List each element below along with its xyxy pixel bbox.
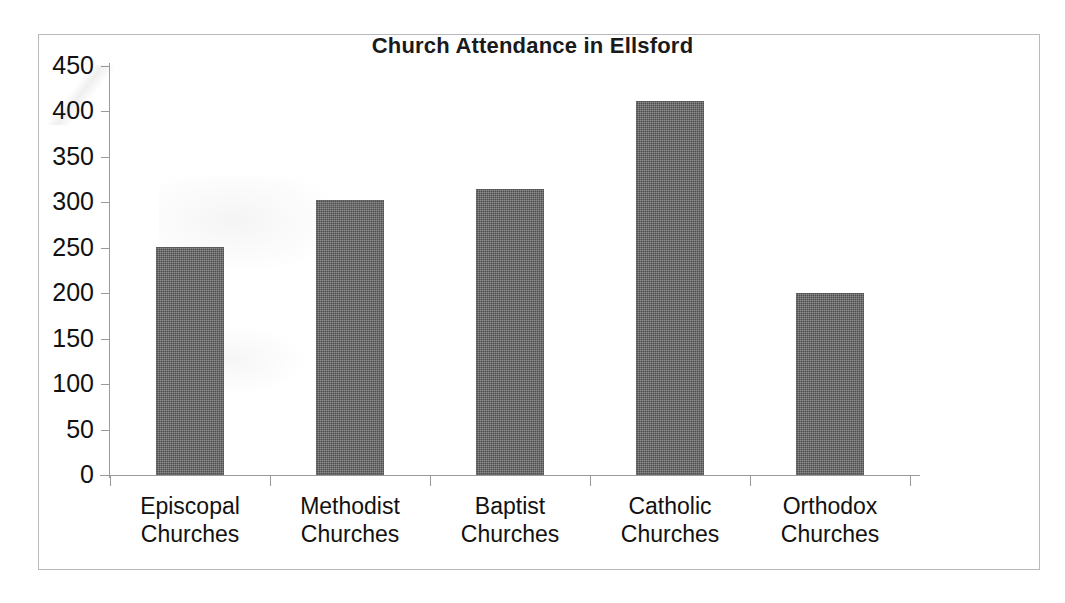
category-label-line2: Churches: [590, 520, 750, 548]
y-tick-350: [101, 157, 110, 158]
y-tick-label-0: 0: [30, 462, 94, 487]
x-tick-2: [590, 476, 591, 486]
y-tick-label-150: 150: [30, 326, 94, 351]
category-label-line1: Baptist: [475, 493, 545, 519]
y-tick-450: [101, 66, 110, 67]
category-label-catholic-churches: CatholicChurches: [590, 492, 750, 548]
category-label-line1: Orthodox: [783, 493, 878, 519]
x-axis-line: [100, 475, 920, 476]
y-tick-100: [101, 384, 110, 385]
y-tick-label-250: 250: [30, 235, 94, 260]
x-tick-0: [270, 476, 271, 486]
bar-catholic-churches: [636, 101, 704, 475]
y-tick-label-300: 300: [30, 189, 94, 214]
chart-title: Church Attendance in Ellsford: [0, 33, 1065, 59]
y-tick-label-50: 50: [30, 417, 94, 442]
category-label-baptist-churches: BaptistChurches: [430, 492, 590, 548]
category-label-episcopal-churches: EpiscopalChurches: [110, 492, 270, 548]
y-tick-label-200: 200: [30, 280, 94, 305]
y-tick-0: [101, 475, 110, 476]
category-label-line2: Churches: [430, 520, 590, 548]
bar-methodist-churches: [316, 200, 384, 475]
category-label-methodist-churches: MethodistChurches: [270, 492, 430, 548]
category-label-line2: Churches: [110, 520, 270, 548]
y-tick-50: [101, 430, 110, 431]
y-tick-label-350: 350: [30, 144, 94, 169]
category-label-orthodox-churches: OrthodoxChurches: [750, 492, 910, 548]
x-tick-4: [910, 476, 911, 486]
y-tick-150: [101, 339, 110, 340]
y-tick-label-100: 100: [30, 371, 94, 396]
bar-episcopal-churches: [156, 247, 224, 475]
chart-screenshot: Church Attendance in Ellsford 4504003503…: [0, 0, 1065, 603]
y-axis-line: [109, 63, 110, 478]
y-tick-400: [101, 111, 110, 112]
category-label-line2: Churches: [750, 520, 910, 548]
category-label-line1: Catholic: [628, 493, 711, 519]
category-label-line1: Episcopal: [140, 493, 240, 519]
y-tick-250: [101, 248, 110, 249]
x-tick-3: [750, 476, 751, 486]
category-label-line1: Methodist: [300, 493, 400, 519]
x-tick-origin: [110, 476, 111, 486]
x-tick-1: [430, 476, 431, 486]
category-label-line2: Churches: [270, 520, 430, 548]
y-tick-label-450: 450: [30, 53, 94, 78]
bar-baptist-churches: [476, 189, 544, 475]
y-tick-300: [101, 202, 110, 203]
bar-orthodox-churches: [796, 293, 864, 475]
y-tick-label-400: 400: [30, 98, 94, 123]
y-tick-200: [101, 293, 110, 294]
